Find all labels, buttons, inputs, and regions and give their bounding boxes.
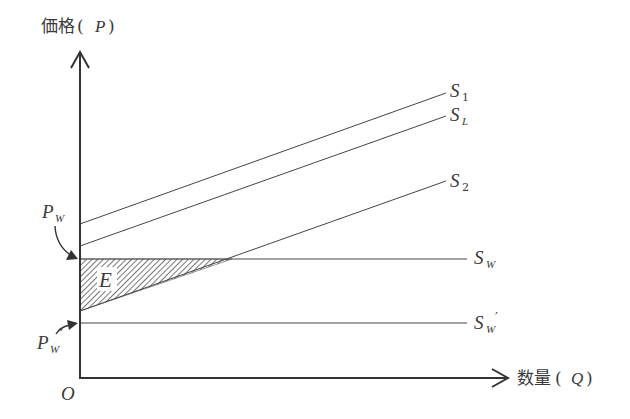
svg-text:W: W — [486, 258, 496, 270]
svg-text:数量: 数量 — [517, 368, 551, 388]
svg-text:P: P — [94, 17, 105, 36]
svg-text:P: P — [41, 201, 54, 222]
supply-diagram: E 価格 ( P ) 数量 ( Q ) O S 1 S L S 2 S W S — [0, 0, 630, 419]
svg-text:S: S — [450, 80, 460, 101]
curve-s2 — [80, 181, 446, 311]
label-sw: S W — [474, 247, 496, 270]
svg-text:′: ′ — [495, 310, 498, 325]
svg-text:S: S — [450, 104, 460, 125]
label-sw-prime: S W ′ — [474, 310, 498, 335]
svg-text:W: W — [50, 343, 60, 355]
pw-prime-pointer-arrowhead-icon — [67, 320, 78, 330]
label-s1: S 1 — [450, 80, 469, 104]
y-axis-label: 価格 ( P ) — [41, 16, 115, 36]
pw-pointer-arrowhead-icon — [66, 250, 78, 260]
label-pw: P W — [41, 201, 65, 224]
svg-text:W: W — [55, 212, 65, 224]
pw-pointer-arrow-icon — [55, 226, 72, 256]
svg-text:S: S — [474, 312, 484, 333]
label-s2: S 2 — [450, 170, 469, 194]
svg-text:): ) — [108, 16, 115, 36]
curve-sl — [80, 116, 446, 246]
label-sl: S L — [450, 104, 468, 127]
svg-text:価格: 価格 — [41, 16, 75, 36]
svg-text:L: L — [461, 115, 468, 127]
svg-text:1: 1 — [462, 91, 469, 104]
pw-prime-pointer-arrow-icon — [56, 325, 70, 334]
svg-text:S: S — [474, 247, 484, 268]
svg-text:(: ( — [555, 368, 562, 388]
svg-text:Q: Q — [571, 369, 583, 388]
origin-label: O — [61, 383, 75, 404]
svg-text:(: ( — [77, 16, 84, 36]
svg-text:): ) — [586, 368, 593, 388]
e-label: E — [98, 268, 112, 292]
x-axis-label: 数量 ( Q ) — [517, 368, 593, 388]
svg-text:S: S — [450, 170, 460, 191]
svg-text:2: 2 — [462, 181, 469, 194]
svg-text:P: P — [36, 332, 49, 353]
curve-s1 — [80, 93, 446, 224]
